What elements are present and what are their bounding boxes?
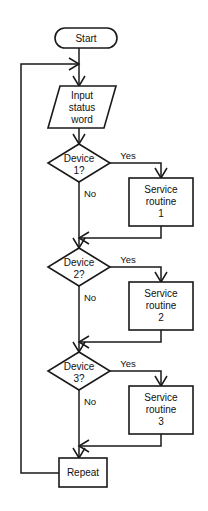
connector-device1-yes	[110, 163, 161, 178]
connector-service1-return	[79, 226, 161, 238]
connector-device3-yes	[110, 371, 161, 386]
connector-service2-return	[79, 330, 161, 342]
edge-label-yes-device2: Yes	[120, 254, 136, 265]
node-service1-line2: routine	[146, 196, 177, 207]
edge-label-no-device2: No	[84, 292, 96, 303]
flowchart-canvas: Start Input status word Device 1? Servic…	[0, 0, 208, 511]
node-service3-line2: routine	[146, 404, 177, 415]
edge-label-no-device3: No	[84, 396, 96, 407]
node-input-line1: Input	[71, 90, 93, 101]
connector-device2-yes	[110, 267, 161, 282]
node-service3-line1: Service	[144, 392, 178, 403]
node-service3-line3: 3	[158, 416, 164, 427]
connector-service3-return	[79, 434, 161, 446]
node-device1-line2: 1?	[73, 165, 85, 176]
node-device3-line1: Device	[64, 361, 95, 372]
node-service2-line2: routine	[146, 300, 177, 311]
edge-label-yes-device3: Yes	[120, 358, 136, 369]
node-device2-line1: Device	[64, 257, 95, 268]
node-service2-line1: Service	[144, 288, 178, 299]
node-service1-line1: Service	[144, 184, 178, 195]
node-device3-line2: 3?	[73, 373, 85, 384]
node-input-line3: word	[70, 114, 93, 125]
node-service2-line3: 2	[158, 312, 164, 323]
node-device2-line2: 2?	[73, 269, 85, 280]
flowchart-svg: Start Input status word Device 1? Servic…	[0, 0, 208, 511]
node-repeat-label: Repeat	[67, 467, 99, 478]
node-input-line2: status	[69, 102, 96, 113]
edge-label-yes-device1: Yes	[120, 150, 136, 161]
node-start-label: Start	[75, 33, 96, 44]
node-device1-line1: Device	[64, 153, 95, 164]
edge-label-no-device1: No	[84, 188, 96, 199]
node-service1-line3: 1	[158, 208, 164, 219]
